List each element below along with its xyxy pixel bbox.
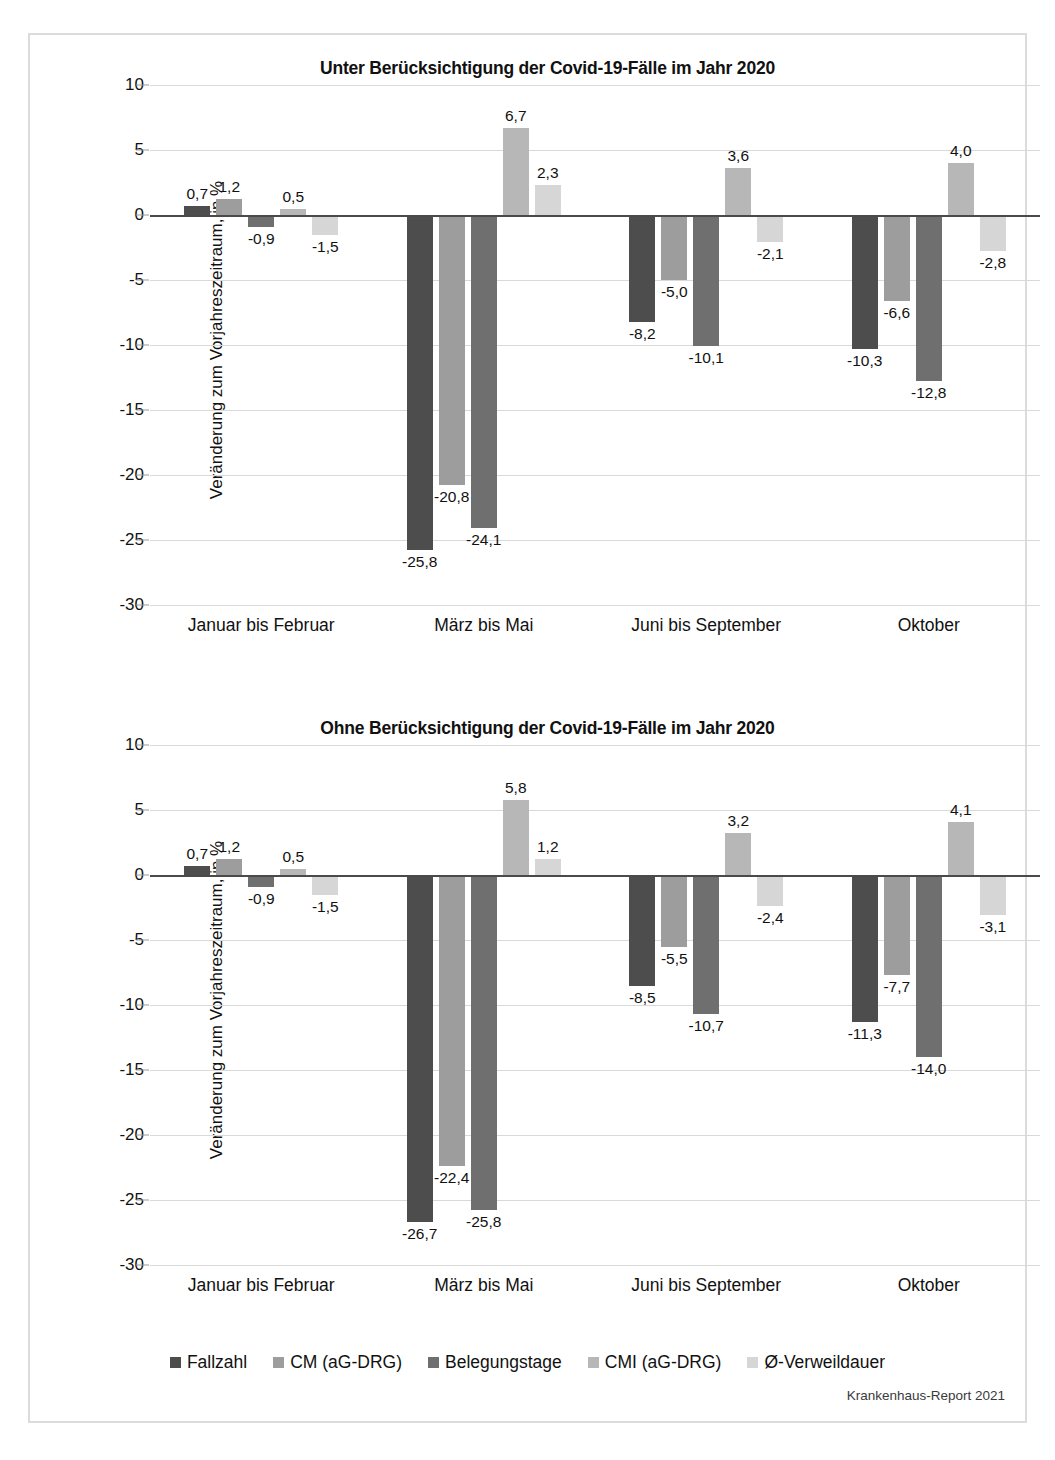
chart-lower-bar-value-label: -5,5 bbox=[661, 951, 688, 967]
legend-item[interactable]: CMI (aG-DRG) bbox=[588, 1352, 722, 1373]
chart-upper-bar-fill bbox=[535, 185, 561, 215]
chart-upper-bar[interactable]: 3,6 bbox=[725, 85, 751, 605]
chart-lower-y-tick-mark bbox=[136, 875, 149, 876]
chart-lower-plot-area: Veränderung zum Vorjahreszeitraum, in % … bbox=[60, 745, 1035, 1265]
chart-lower-y-tick-mark bbox=[136, 1135, 149, 1136]
legend-item[interactable]: Ø-Verweildauer bbox=[747, 1352, 885, 1373]
chart-upper-bar-fill bbox=[629, 215, 655, 322]
chart-lower-bar[interactable]: 0,7 bbox=[184, 745, 210, 1265]
chart-lower-bar[interactable]: -22,4 bbox=[439, 745, 465, 1265]
chart-upper-bar-fill bbox=[948, 163, 974, 215]
chart-lower-bar[interactable]: 3,2 bbox=[725, 745, 751, 1265]
legend-swatch-icon bbox=[747, 1357, 758, 1368]
chart-lower-bar-value-label: 0,5 bbox=[282, 849, 304, 865]
chart-upper-x-tick-label: März bis Mai bbox=[434, 615, 533, 636]
chart-upper-bar[interactable]: 4,0 bbox=[948, 85, 974, 605]
chart-lower-bar[interactable]: 1,2 bbox=[535, 745, 561, 1265]
chart-lower-bar-value-label: 3,2 bbox=[727, 813, 749, 829]
chart-lower-bar[interactable]: -7,7 bbox=[884, 745, 910, 1265]
chart-upper-y-tick-mark bbox=[136, 85, 149, 86]
chart-upper-bar[interactable]: 2,3 bbox=[535, 85, 561, 605]
chart-upper-bar[interactable]: -10,1 bbox=[693, 85, 719, 605]
chart-upper-bar[interactable]: 1,2 bbox=[216, 85, 242, 605]
chart-upper-bar-fill bbox=[693, 215, 719, 346]
chart-upper-bar-group: -10,3-6,6-12,84,0-2,8 bbox=[852, 85, 1006, 605]
chart-upper-y-tick-label: -25 bbox=[74, 530, 144, 550]
chart-lower-bar[interactable]: -3,1 bbox=[980, 745, 1006, 1265]
chart-upper-y-tick-mark bbox=[136, 345, 149, 346]
chart-upper-bar[interactable]: -8,2 bbox=[629, 85, 655, 605]
chart-upper-bar-group: -25,8-20,8-24,16,72,3 bbox=[407, 85, 561, 605]
chart-lower-bar[interactable]: 0,5 bbox=[280, 745, 306, 1265]
chart-lower-bar[interactable]: -10,7 bbox=[693, 745, 719, 1265]
chart-lower-bar[interactable]: 5,8 bbox=[503, 745, 529, 1265]
chart-lower-bar[interactable]: 4,1 bbox=[948, 745, 974, 1265]
chart-lower-x-tick-label: Januar bis Februar bbox=[188, 1275, 335, 1296]
chart-upper-bar[interactable]: -6,6 bbox=[884, 85, 910, 605]
chart-upper-y-tick-label: -15 bbox=[74, 400, 144, 420]
legend-item[interactable]: Fallzahl bbox=[170, 1352, 247, 1373]
chart-upper-bar[interactable]: -25,8 bbox=[407, 85, 433, 605]
chart-upper-bar-group: -8,2-5,0-10,13,6-2,1 bbox=[629, 85, 783, 605]
chart-upper-bar-value-label: -1,5 bbox=[312, 239, 339, 255]
chart-lower-bar[interactable]: -14,0 bbox=[916, 745, 942, 1265]
chart-upper-bar-fill bbox=[916, 215, 942, 381]
legend-swatch-icon bbox=[588, 1357, 599, 1368]
chart-upper-bar[interactable]: 6,7 bbox=[503, 85, 529, 605]
legend-item[interactable]: CM (aG-DRG) bbox=[273, 1352, 402, 1373]
chart-upper-bar-fill bbox=[980, 215, 1006, 251]
chart-upper-bar-value-label: -10,1 bbox=[689, 350, 724, 366]
chart-lower-bar-value-label: -14,0 bbox=[911, 1061, 946, 1077]
chart-upper-bar-fill bbox=[725, 168, 751, 215]
chart-lower-y-tick-mark bbox=[136, 745, 149, 746]
chart-upper-bar-value-label: -8,2 bbox=[629, 326, 656, 342]
chart-upper-bar-value-label: -5,0 bbox=[661, 284, 688, 300]
chart-lower-bar-group: -8,5-5,5-10,73,2-2,4 bbox=[629, 745, 783, 1265]
legend-item[interactable]: Belegungstage bbox=[428, 1352, 562, 1373]
chart-upper-bar[interactable]: -2,1 bbox=[757, 85, 783, 605]
chart-lower-bar-value-label: -7,7 bbox=[883, 979, 910, 995]
chart-upper-y-tick-mark bbox=[136, 540, 149, 541]
chart-upper-bar[interactable]: 0,5 bbox=[280, 85, 306, 605]
chart-lower-bar-fill bbox=[725, 833, 751, 875]
chart-upper-bar[interactable]: -10,3 bbox=[852, 85, 878, 605]
chart-lower-title: Ohne Berücksichtigung der Covid-19-Fälle… bbox=[0, 718, 1055, 739]
chart-upper-bar[interactable]: -1,5 bbox=[312, 85, 338, 605]
chart-lower-bar-fill bbox=[312, 875, 338, 895]
chart-lower-bar-value-label: -2,4 bbox=[757, 910, 784, 926]
chart-lower-bar-fill bbox=[407, 875, 433, 1222]
chart-upper-bar[interactable]: -12,8 bbox=[916, 85, 942, 605]
chart-lower-bar[interactable]: -26,7 bbox=[407, 745, 433, 1265]
chart-upper-title: Unter Berücksichtigung der Covid-19-Fäll… bbox=[0, 58, 1055, 79]
chart-upper-bar[interactable]: -2,8 bbox=[980, 85, 1006, 605]
chart-lower-y-tick-mark bbox=[136, 810, 149, 811]
chart-lower-bar[interactable]: -25,8 bbox=[471, 745, 497, 1265]
chart-lower-bar-value-label: 5,8 bbox=[505, 780, 527, 796]
chart-lower-bar-value-label: -11,3 bbox=[848, 1026, 882, 1042]
chart-lower-bar[interactable]: -11,3 bbox=[852, 745, 878, 1265]
chart-upper-bar[interactable]: -0,9 bbox=[248, 85, 274, 605]
legend-item-label: CM (aG-DRG) bbox=[290, 1352, 402, 1373]
chart-upper-bar-value-label: 3,6 bbox=[727, 148, 749, 164]
chart-lower-bar[interactable]: -2,4 bbox=[757, 745, 783, 1265]
chart-upper-y-tick-label: 0 bbox=[74, 205, 144, 225]
chart-lower-bar[interactable]: -5,5 bbox=[661, 745, 687, 1265]
chart-upper-bar-value-label: 6,7 bbox=[505, 108, 527, 124]
chart-lower-bar[interactable]: -8,5 bbox=[629, 745, 655, 1265]
chart-upper-bar[interactable]: -5,0 bbox=[661, 85, 687, 605]
chart-upper-y-tick-label: -5 bbox=[74, 270, 144, 290]
chart-upper-bar[interactable]: 0,7 bbox=[184, 85, 210, 605]
chart-lower-bar-group: -11,3-7,7-14,04,1-3,1 bbox=[852, 745, 1006, 1265]
chart-lower-bar[interactable]: -0,9 bbox=[248, 745, 274, 1265]
chart-lower-gridline bbox=[150, 875, 1040, 877]
chart-lower-bar-value-label: 0,7 bbox=[186, 846, 208, 862]
chart-upper-bar[interactable]: -20,8 bbox=[439, 85, 465, 605]
chart-lower-bar[interactable]: -1,5 bbox=[312, 745, 338, 1265]
chart-lower-bar-value-label: -0,9 bbox=[248, 891, 275, 907]
chart-lower-bar-value-label: -8,5 bbox=[629, 990, 656, 1006]
chart-lower-bar[interactable]: 1,2 bbox=[216, 745, 242, 1265]
chart-upper-bar-value-label: -12,8 bbox=[911, 385, 946, 401]
chart-upper-bar[interactable]: -24,1 bbox=[471, 85, 497, 605]
chart-upper-plot-area: Veränderung zum Vorjahreszeitraum, in % … bbox=[60, 85, 1035, 605]
chart-lower-bar-fill bbox=[439, 875, 465, 1166]
